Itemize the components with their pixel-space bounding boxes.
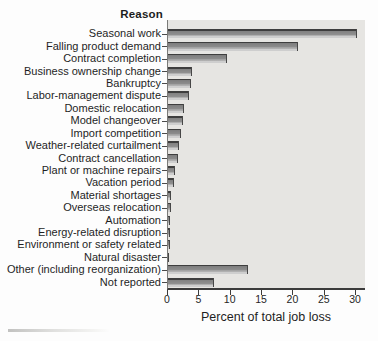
y-category-tick [162, 83, 167, 84]
y-category-tick [162, 245, 167, 246]
y-category-tick [162, 34, 167, 35]
category-label: Automation [0, 215, 161, 226]
bar [168, 240, 170, 249]
y-category-tick [162, 46, 167, 47]
bar [168, 253, 169, 262]
y-category-tick [162, 208, 167, 209]
bar [168, 228, 170, 237]
bar [168, 265, 248, 274]
y-category-tick [162, 158, 167, 159]
category-label: Energy-related disruption [0, 227, 161, 238]
category-label: Vacation period [0, 177, 161, 188]
category-label: Overseas relocation [0, 202, 161, 213]
y-category-tick [162, 133, 167, 134]
bar [168, 29, 357, 38]
y-category-tick [162, 233, 167, 234]
bar [168, 178, 174, 187]
bar [168, 116, 183, 125]
category-label: Business ownership change [0, 66, 161, 77]
bar [168, 79, 191, 88]
cropped-caption-strip [8, 329, 110, 332]
y-category-tick [162, 220, 167, 221]
category-label: Contract completion [0, 53, 161, 64]
bar [168, 203, 171, 212]
y-category-tick [162, 183, 167, 184]
category-label: Bankruptcy [0, 78, 161, 89]
y-category-tick [162, 146, 167, 147]
x-tick-label: 20 [277, 293, 307, 305]
y-category-tick [162, 195, 167, 196]
category-label: Domestic relocation [0, 103, 161, 114]
bar [168, 104, 184, 113]
category-label: Material shortages [0, 190, 161, 201]
bar [168, 67, 192, 76]
y-category-tick [162, 108, 167, 109]
x-tick-label: 10 [215, 293, 245, 305]
x-tick-label: 30 [340, 293, 370, 305]
y-category-tick [162, 257, 167, 258]
category-label: Seasonal work [0, 28, 161, 39]
category-label: Weather-related curtailment [0, 140, 161, 151]
category-label: Labor-management dispute [0, 90, 161, 101]
bar [168, 129, 181, 138]
category-label: Environment or safety related [0, 239, 161, 250]
category-label: Other (including reorganization) [0, 264, 161, 275]
category-label: Model changeover [0, 115, 161, 126]
bar [168, 91, 189, 100]
x-tick-label: 15 [246, 293, 276, 305]
y-category-tick [162, 71, 167, 72]
y-category-tick [162, 270, 167, 271]
bar [168, 154, 178, 163]
y-category-tick [162, 170, 167, 171]
category-label: Plant or machine repairs [0, 165, 161, 176]
category-label: Contract cancellation [0, 153, 161, 164]
bar [168, 278, 214, 287]
bar [168, 191, 171, 200]
category-label: Not reported [0, 277, 161, 288]
x-tick-label: 5 [183, 293, 213, 305]
figure: Reason Seasonal workFalling product dema… [0, 0, 378, 341]
bar [168, 141, 179, 150]
bar [168, 216, 170, 225]
bar [168, 54, 227, 63]
x-tick-label: 25 [309, 293, 339, 305]
x-axis-label: Percent of total job loss [167, 310, 365, 324]
bar [168, 166, 175, 175]
chart-title: Reason [0, 8, 163, 20]
category-label: Falling product demand [0, 41, 161, 52]
category-label: Import competition [0, 128, 161, 139]
x-tick-label: 0 [152, 293, 182, 305]
y-category-tick [162, 121, 167, 122]
category-label: Natural disaster [0, 252, 161, 263]
bar [168, 42, 298, 51]
y-category-tick [162, 59, 167, 60]
y-category-tick [162, 282, 167, 283]
y-category-tick [162, 96, 167, 97]
